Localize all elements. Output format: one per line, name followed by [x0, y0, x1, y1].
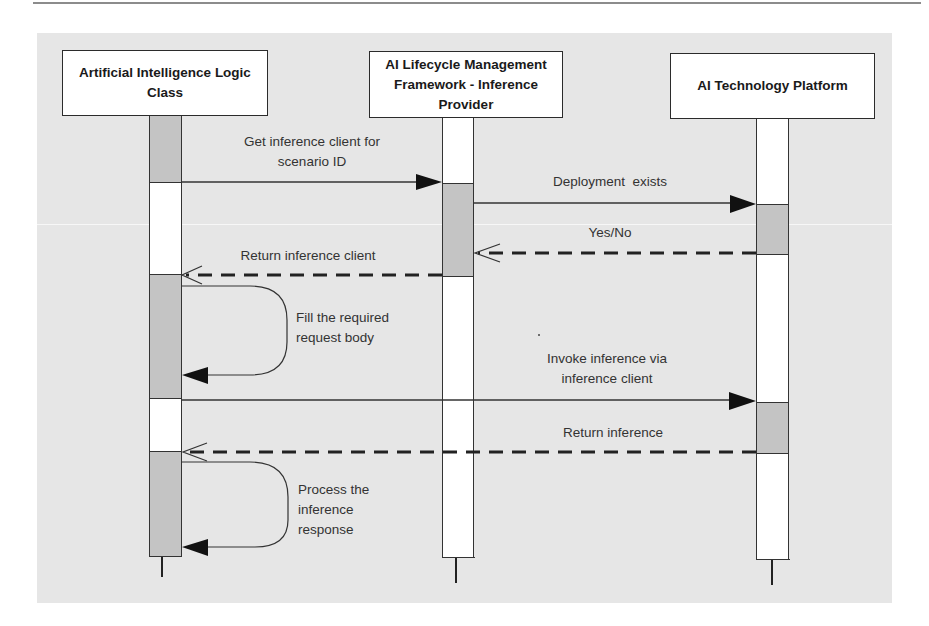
- label-text: Deployment exists: [553, 174, 667, 189]
- label-line: Invoke inference via: [527, 349, 687, 369]
- message-label-yes-no: Yes/No: [550, 223, 670, 243]
- message-arrow-get-client: [182, 174, 442, 190]
- message-label-fill-request: Fill the required request body: [296, 308, 436, 348]
- label-line: request body: [296, 328, 436, 348]
- label-line: Process the: [298, 480, 418, 500]
- label-line: Fill the required: [296, 308, 436, 328]
- label-line: Get inference client for: [222, 132, 402, 152]
- label-text: Return inference: [563, 425, 663, 440]
- label-line: scenario ID: [222, 152, 402, 172]
- message-arrow-yes-no: [475, 244, 756, 262]
- message-arrows: [0, 0, 929, 626]
- message-arrow-return-client: [182, 266, 442, 284]
- message-label-process-response: Process the inference response: [298, 480, 418, 540]
- self-call-process-response: [182, 462, 288, 556]
- self-call-fill-request: [182, 286, 287, 384]
- message-label-return-client: Return inference client: [218, 246, 398, 266]
- message-label-get-client: Get inference client for scenario ID: [222, 132, 402, 172]
- label-line: response: [298, 520, 418, 540]
- message-arrow-deployment-exists: [474, 195, 756, 213]
- message-arrow-invoke-inference: [182, 392, 756, 410]
- label-line: inference: [298, 500, 418, 520]
- scan-speck: [538, 334, 540, 336]
- label-text: Yes/No: [588, 225, 631, 240]
- label-line: inference client: [527, 369, 687, 389]
- message-label-deployment-exists: Deployment exists: [520, 172, 700, 192]
- label-text: Return inference client: [240, 248, 375, 263]
- message-label-invoke-inference: Invoke inference via inference client: [527, 349, 687, 389]
- message-label-return-inference: Return inference: [538, 423, 688, 443]
- message-arrow-return-inference: [183, 443, 756, 461]
